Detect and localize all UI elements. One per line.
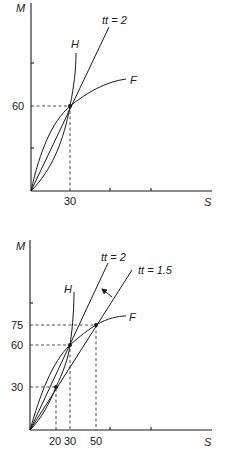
bottom-tick-label-x30: 30	[64, 435, 76, 447]
bottom-point-20-30	[54, 385, 58, 389]
top-label-f: F	[130, 74, 138, 86]
bottom-label-tt2: tt = 2	[101, 251, 126, 263]
top-H-curve	[31, 53, 76, 191]
diagram-canvas: M 60 30 S H tt = 2 F M 75 60 30	[0, 0, 226, 457]
shift-arrow	[102, 289, 112, 297]
bottom-tick-label-x50: 50	[90, 435, 102, 447]
top-axis-label-m: M	[16, 2, 26, 14]
bottom-F-curve	[30, 316, 126, 430]
bottom-tick-label-x20: 20	[49, 435, 61, 447]
bottom-axis-label-m: M	[16, 240, 26, 252]
top-label-h: H	[71, 38, 79, 50]
bottom-tt15-line	[30, 270, 132, 430]
top-label-tt2: tt = 2	[102, 14, 127, 26]
bottom-panel: M 75 60 30 20 30 50 S H tt = 2 tt = 1.5 …	[11, 240, 212, 448]
bottom-label-f: F	[129, 311, 137, 323]
bottom-label-tt15: tt = 1.5	[138, 264, 173, 276]
bottom-tick-label-75: 75	[11, 319, 23, 331]
bottom-point-50-75	[94, 323, 98, 327]
top-axis-label-s: S	[204, 196, 212, 208]
bottom-tick-label-60: 60	[11, 339, 23, 351]
bottom-tick-label-30: 30	[11, 381, 23, 393]
bottom-point-30-60	[68, 343, 72, 347]
top-point-30-60	[68, 104, 72, 108]
bottom-axis-label-s: S	[204, 436, 212, 448]
top-tick-label-30: 30	[64, 195, 76, 207]
top-tick-label-60: 60	[12, 100, 24, 112]
top-panel: M 60 30 S H tt = 2 F	[12, 2, 212, 208]
bottom-label-h: H	[64, 283, 72, 295]
